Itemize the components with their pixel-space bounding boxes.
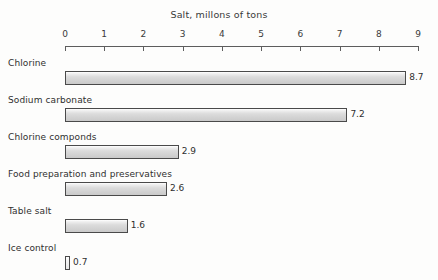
- bar: [65, 219, 128, 233]
- x-axis: 0123456789: [65, 46, 418, 47]
- x-axis-tick: [261, 46, 262, 51]
- x-axis-tick-label: 1: [101, 29, 107, 39]
- bar-value-label: 2.6: [170, 183, 184, 193]
- bar-row: Table salt1.6: [0, 206, 438, 242]
- x-axis-tick: [222, 46, 223, 51]
- bar-category-label: Table salt: [8, 206, 51, 216]
- x-axis-tick: [143, 46, 144, 51]
- bar-row: Sodium carbonate7.2: [0, 95, 438, 131]
- bar-chart: Salt, millons of tons 0123456789 Chlorin…: [0, 0, 438, 280]
- x-axis-tick: [104, 46, 105, 51]
- x-axis-tick: [379, 46, 380, 51]
- bar-category-label: Chlorine: [8, 58, 46, 68]
- x-axis-tick-label: 4: [219, 29, 225, 39]
- bar-value-label: 8.7: [409, 72, 423, 82]
- chart-title: Salt, millons of tons: [0, 9, 438, 20]
- bar-value-label: 0.7: [73, 257, 87, 267]
- bar-row: Chlorine8.7: [0, 58, 438, 94]
- bar: [65, 108, 347, 122]
- x-axis-tick-label: 6: [297, 29, 303, 39]
- bar-row: Food preparation and preservatives2.6: [0, 169, 438, 205]
- x-axis-tick-label: 8: [376, 29, 382, 39]
- bar-value-label: 1.6: [131, 220, 145, 230]
- bar-category-label: Sodium carbonate: [8, 95, 92, 105]
- x-axis-tick-label: 9: [415, 29, 421, 39]
- bar: [65, 256, 70, 270]
- bar-category-label: Food preparation and preservatives: [8, 169, 172, 179]
- bar-value-label: 7.2: [350, 109, 364, 119]
- x-axis-tick-label: 3: [180, 29, 186, 39]
- bar-category-label: Ice control: [8, 243, 56, 253]
- bar-value-label: 2.9: [182, 146, 196, 156]
- x-axis-tick: [340, 46, 341, 51]
- x-axis-tick-label: 0: [62, 29, 68, 39]
- bar-category-label: Chlorine componds: [8, 132, 97, 142]
- x-axis-tick: [183, 46, 184, 51]
- x-axis-tick-label: 7: [337, 29, 343, 39]
- x-axis-tick: [418, 46, 419, 51]
- bar-row: Chlorine componds2.9: [0, 132, 438, 168]
- x-axis-tick: [65, 46, 66, 51]
- bar: [65, 71, 406, 85]
- bar-row: Ice control0.7: [0, 243, 438, 279]
- x-axis-tick-label: 5: [258, 29, 264, 39]
- bar: [65, 145, 179, 159]
- x-axis-tick: [300, 46, 301, 51]
- bar: [65, 182, 167, 196]
- x-axis-tick-label: 2: [141, 29, 147, 39]
